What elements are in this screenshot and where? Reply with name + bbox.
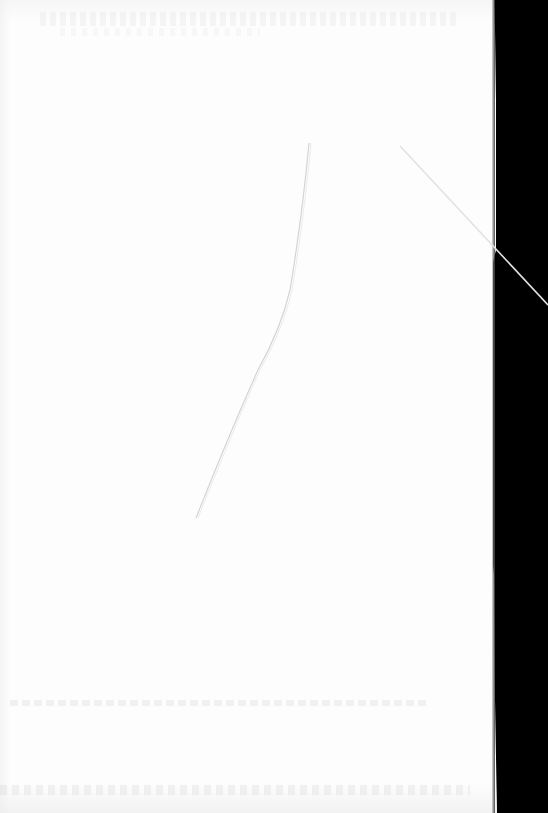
bleed-through-bottom-2: [0, 785, 470, 795]
scanned-page-container: [0, 0, 548, 813]
bleed-through-bottom: [10, 700, 430, 706]
bleed-through-top: [40, 12, 460, 26]
blank-paper-page: [0, 0, 548, 813]
bleed-through-top-2: [60, 28, 260, 36]
page-right-edge: [492, 0, 495, 813]
